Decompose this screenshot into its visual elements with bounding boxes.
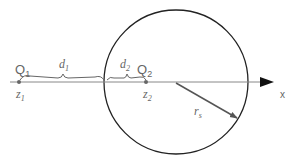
charge-q1-dot (17, 80, 21, 84)
brace-d1 (20, 74, 104, 80)
distance-d2-label: d2 (120, 57, 130, 73)
charge-q1-label: Q1 (15, 62, 30, 79)
radius-arrow (176, 83, 237, 118)
sphere-charges-diagram: x Q1 Q2 d1 d2 z1 z2 rs (0, 0, 288, 155)
x-axis-arrowhead (260, 77, 274, 87)
diagram-canvas: x Q1 Q2 d1 d2 z1 z2 rs (0, 0, 288, 155)
radius-label: rs (194, 104, 202, 120)
x-axis-label: x (280, 89, 285, 100)
charge-q2-label: Q2 (137, 62, 152, 79)
charge-q2-dot (144, 80, 148, 84)
position-z2-label: z2 (142, 87, 152, 103)
distance-d1-label: d1 (59, 57, 69, 73)
position-z1-label: z1 (15, 87, 25, 103)
